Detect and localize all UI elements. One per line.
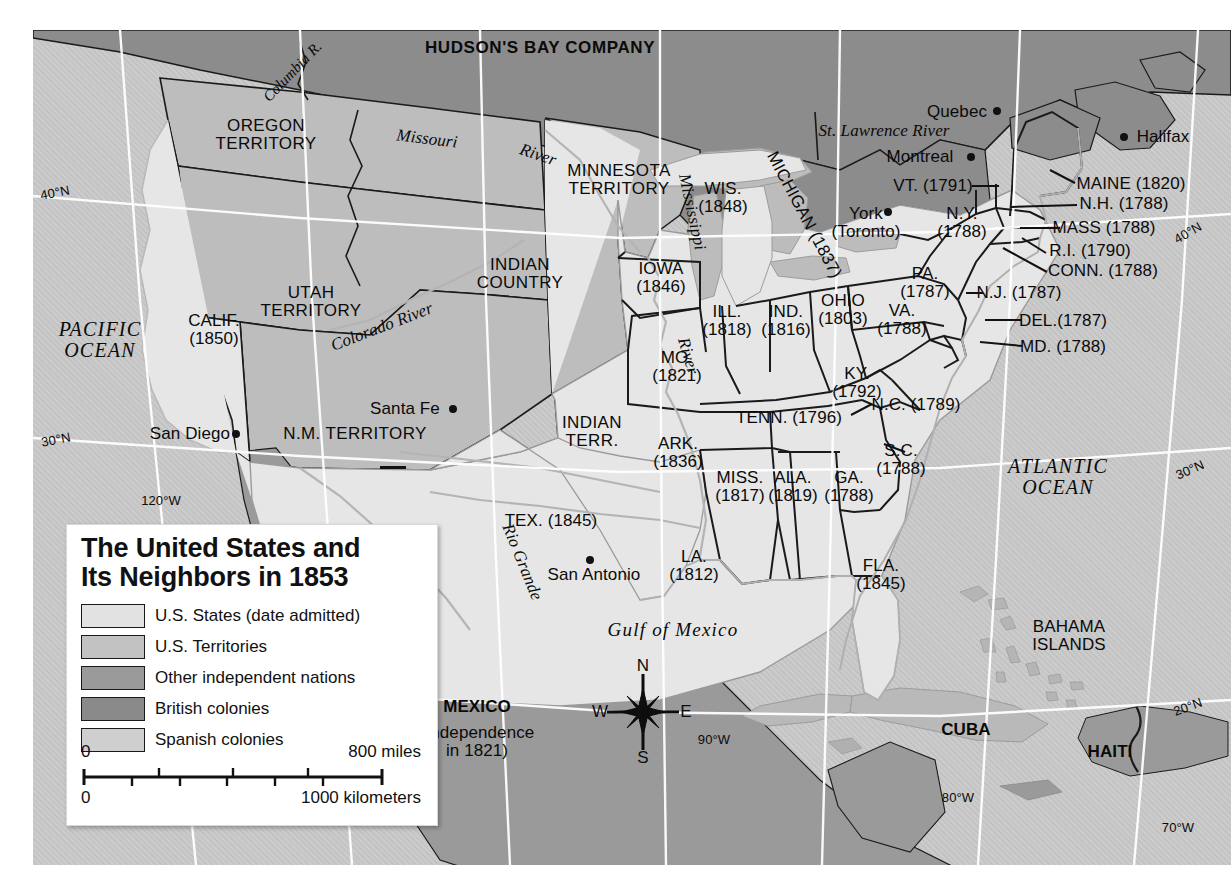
leader-tenn [851,404,872,415]
legend-swatch-states [81,604,145,628]
legend-items: U.S. States (date admitted) U.S. Territo… [67,600,437,755]
legend-label-other-nations: Other independent nations [155,668,355,688]
label-haiti: HAITI [1088,743,1133,761]
legend-row-british: British colonies [81,693,437,724]
legend-row-territories: U.S. Territories [81,631,437,662]
map-figure: HUDSON'S BAY COMPANY St. Lawrence River … [0,0,1231,886]
legend-label-british: British colonies [155,699,269,719]
map-legend: The United States and Its Neighbors in 1… [66,524,438,826]
label-atlantic-ocean: ATLANTIC OCEAN [1008,456,1108,498]
legend-row-states: U.S. States (date admitted) [81,600,437,631]
label-lon-70w: 70°W [1162,821,1194,835]
legend-title-line1: The United States and [81,534,425,563]
compass-north: N [637,656,649,676]
gadsden-line-mark [380,466,406,469]
scale-km-end: 1000 kilometers [301,788,421,808]
leader-conn [1003,248,1047,272]
leader-ri [1022,238,1046,253]
legend-title: The United States and Its Neighbors in 1… [67,525,437,594]
label-lon-90w: 90°W [698,733,730,747]
label-pacific-ocean: PACIFIC OCEAN [59,319,141,361]
legend-swatch-territories [81,635,145,659]
legend-label-territories: U.S. Territories [155,637,267,657]
leader-nh [1011,205,1077,207]
label-lon-120w: 120°W [141,494,181,508]
label-bahama-islands: BAHAMA ISLANDS [1032,618,1105,654]
scale-miles-end: 800 miles [348,742,421,762]
legend-swatch-other-nations [81,666,145,690]
scale-miles-start: 0 [81,742,90,762]
legend-label-states: U.S. States (date admitted) [155,606,360,626]
leader-maine [1050,170,1075,183]
compass-rose: N E S W [596,660,690,764]
legend-swatch-british [81,697,145,721]
label-cuba: CUBA [941,721,991,739]
map-scale-bar: 0 800 miles 0 1000 kilometers [81,742,425,816]
scale-km-start: 0 [81,788,90,808]
legend-title-line2: Its Neighbors in 1853 [81,563,425,592]
label-lon-80w: 80°W [942,791,974,805]
compass-east: E [680,702,691,722]
label-mexico: MEXICO [443,698,511,716]
leader-md [980,342,1022,346]
compass-west: W [592,702,608,722]
leader-sc [884,444,905,452]
label-gulf-of-mexico: Gulf of Mexico [608,620,739,640]
legend-row-other-nations: Other independent nations [81,662,437,693]
compass-south: S [637,748,648,768]
